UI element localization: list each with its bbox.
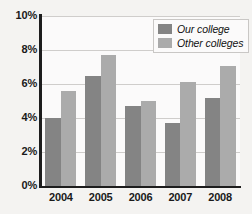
legend-swatch-icon-other-colleges bbox=[158, 38, 172, 48]
y-axis-tick-label: 8% bbox=[3, 43, 37, 55]
bar bbox=[141, 101, 157, 186]
x-axis-tick-label: 2007 bbox=[160, 191, 200, 203]
chart-legend: Our college Other colleges bbox=[153, 19, 249, 53]
gridline bbox=[41, 84, 240, 85]
y-axis-line bbox=[39, 14, 42, 188]
bar bbox=[85, 76, 101, 187]
y-axis-tick-label: 4% bbox=[3, 111, 37, 123]
legend-label-other-colleges: Other colleges bbox=[177, 37, 243, 49]
legend-label-our-college: Our college bbox=[177, 23, 230, 35]
legend-item-other-colleges: Other colleges bbox=[158, 37, 243, 49]
bar bbox=[45, 118, 61, 186]
y-axis-tick-label: 6% bbox=[3, 77, 37, 89]
x-axis-tick-label: 2004 bbox=[41, 191, 81, 203]
y-axis-tick-label: 2% bbox=[3, 145, 37, 157]
bar bbox=[61, 91, 77, 186]
gridline bbox=[41, 16, 240, 17]
bar bbox=[180, 82, 196, 186]
y-axis-tick-label: 10% bbox=[3, 9, 37, 21]
bar-chart: 0%2%4%6%8%10% 20042005200620072008 Our c… bbox=[0, 0, 252, 214]
x-axis-tick-label: 2006 bbox=[121, 191, 161, 203]
bar bbox=[101, 55, 117, 186]
bar bbox=[125, 106, 141, 186]
y-axis-tick-label: 0% bbox=[3, 179, 37, 191]
bar bbox=[220, 66, 236, 186]
x-axis-tick-label: 2008 bbox=[200, 191, 240, 203]
bar bbox=[205, 98, 221, 186]
legend-item-our-college: Our college bbox=[158, 23, 243, 35]
legend-swatch-icon-our-college bbox=[158, 24, 172, 34]
bar bbox=[165, 123, 181, 186]
x-axis-tick-label: 2005 bbox=[81, 191, 121, 203]
